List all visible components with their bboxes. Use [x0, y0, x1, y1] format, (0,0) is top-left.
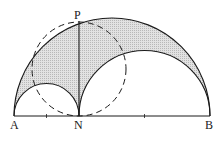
label-B: B — [205, 118, 213, 132]
label-A: A — [10, 118, 19, 132]
label-P: P — [74, 8, 81, 22]
arbelos-diagram: A N B P — [0, 0, 220, 141]
shaded-arbelos-region — [14, 18, 210, 116]
label-N: N — [74, 118, 83, 132]
